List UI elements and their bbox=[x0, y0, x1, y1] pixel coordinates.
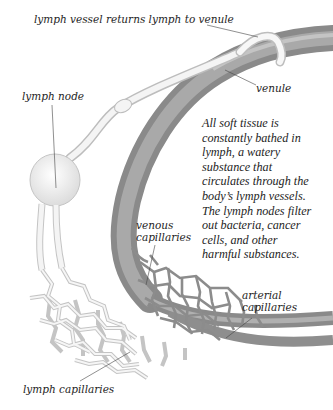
description-text: All soft tissue is constantly bathed in … bbox=[202, 116, 332, 262]
leader-lymph-vessel bbox=[207, 25, 258, 37]
label-venule: venule bbox=[256, 82, 291, 94]
description-line: out bacteria, cancer bbox=[202, 218, 332, 233]
lymph-diagram: lymph vessel returns lymph to venule ven… bbox=[0, 0, 333, 410]
description-line: harmful substances. bbox=[202, 247, 332, 262]
description-line: All soft tissue is bbox=[202, 116, 332, 131]
description-line: body’s lymph vessels. bbox=[202, 189, 332, 204]
label-arterial-capillaries-1: arterial bbox=[242, 289, 282, 301]
label-lymph-capillaries: lymph capillaries bbox=[23, 383, 114, 395]
description-line: circulates through the bbox=[202, 174, 332, 189]
label-lymph-vessel-returns: lymph vessel returns lymph to venule bbox=[34, 13, 234, 25]
label-arterial-capillaries-2: capillaries bbox=[242, 301, 297, 313]
description-line: cells, and other bbox=[202, 233, 332, 248]
description-line: constantly bathed in bbox=[202, 131, 332, 146]
label-lymph-node: lymph node bbox=[22, 90, 84, 102]
description-line: substance that bbox=[202, 160, 332, 175]
label-venous-capillaries-2: capillaries bbox=[136, 231, 191, 243]
description-line: The lymph nodes filter bbox=[202, 204, 332, 219]
label-venous-capillaries-1: venous bbox=[136, 219, 173, 231]
description-line: lymph, a watery bbox=[202, 145, 332, 160]
